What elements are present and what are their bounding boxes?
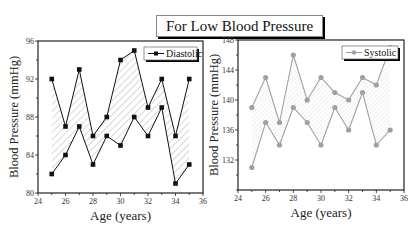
y-tick-label: 80 [26,189,34,198]
data-point-marker [291,52,296,57]
data-point-marker [187,162,192,167]
right-chart-panel: 24262830323436132136140144148Age (years)… [207,36,408,220]
data-point-marker [346,127,351,132]
x-tick-label: 36 [199,197,207,206]
x-tick-label: 24 [234,194,242,203]
x-axis-label: Age (years) [90,208,151,223]
data-point-marker [332,105,337,110]
data-point-marker [305,97,310,102]
data-point-marker [332,90,337,95]
data-point-marker [49,77,54,82]
data-point-marker [360,75,365,80]
x-tick-label: 30 [317,194,325,203]
y-tick-label: 88 [26,113,34,122]
x-tick-label: 32 [144,197,152,206]
data-point-marker [249,105,254,110]
data-point-marker [173,134,178,139]
y-tick-label: 92 [26,75,34,84]
y-tick-label: 96 [26,37,34,46]
fill-between-area [52,51,190,184]
y-tick-label: 144 [222,66,234,75]
y-tick-label: 148 [222,36,234,45]
fill-between-area [252,48,390,168]
data-point-marker [263,120,268,125]
x-axis-label: Age (years) [291,205,352,220]
data-point-marker [318,75,323,80]
data-point-marker [49,172,54,177]
data-point-marker [77,124,82,129]
y-tick-label: 132 [222,156,234,165]
data-point-marker [318,142,323,147]
chart-canvas: 242628303234368084889296Age (years)Blood… [0,0,420,231]
data-point-marker [118,143,123,148]
data-point-marker [360,90,365,95]
data-point-marker [118,58,123,63]
y-axis-label: Blood Pressure (mmHg) [207,54,221,176]
data-point-marker [374,82,379,87]
data-point-marker [132,115,137,120]
data-point-marker [277,120,282,125]
x-tick-label: 34 [172,197,180,206]
data-point-marker [159,77,164,82]
legend: Diastolic [144,47,203,62]
x-tick-label: 28 [289,194,297,203]
legend: Systolic [342,46,400,61]
data-point-marker [277,142,282,147]
data-point-marker [291,105,296,110]
data-point-marker [104,115,109,120]
data-point-marker [132,48,137,53]
left-chart-panel: 242628303234368084889296Age (years)Blood… [7,37,207,223]
y-tick-label: 136 [222,126,234,135]
x-tick-label: 26 [262,194,270,203]
x-tick-label: 32 [345,194,353,203]
x-tick-label: 24 [34,197,42,206]
y-tick-label: 140 [222,96,234,105]
data-point-marker [305,120,310,125]
data-point-marker [91,134,96,139]
legend-label: Diastolic [166,48,203,59]
data-point-marker [263,75,268,80]
data-point-marker [91,162,96,167]
x-tick-label: 34 [372,194,380,203]
y-axis-label: Blood Pressure (mmHg) [7,56,21,178]
x-tick-label: 30 [117,197,125,206]
legend-label: Systolic [364,47,397,58]
data-point-marker [146,105,151,110]
data-point-marker [388,127,393,132]
data-point-marker [374,142,379,147]
data-point-marker [249,165,254,170]
data-point-marker [63,124,68,129]
data-point-marker [146,134,151,139]
data-point-marker [187,77,192,82]
x-tick-label: 26 [62,197,70,206]
y-tick-label: 84 [26,151,34,160]
data-point-marker [77,67,82,72]
x-tick-label: 28 [89,197,97,206]
data-point-marker [104,134,109,139]
data-point-marker [173,181,178,186]
data-point-marker [63,153,68,158]
data-point-marker [346,97,351,102]
data-point-marker [159,105,164,110]
x-tick-label: 36 [400,194,408,203]
